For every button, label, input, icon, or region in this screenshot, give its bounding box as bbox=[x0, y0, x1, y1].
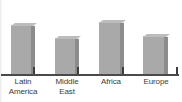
x-axis-label-europe: Europe bbox=[132, 77, 180, 87]
bar-europe bbox=[143, 36, 164, 74]
bar-chart: Latin America Middle East Africa Europe bbox=[0, 0, 182, 102]
bar-middle-east bbox=[55, 38, 75, 74]
plot-area bbox=[0, 0, 182, 76]
bar-africa bbox=[99, 22, 120, 74]
bar-side-face bbox=[164, 37, 168, 74]
x-axis-label-latin-america: Latin America bbox=[0, 77, 46, 96]
bar-latin-america bbox=[11, 25, 31, 74]
category-labels: Latin America Middle East Africa Europe bbox=[0, 76, 182, 102]
x-axis-label-middle-east: Middle East bbox=[44, 77, 90, 96]
axis-tick bbox=[33, 67, 35, 74]
axis-tick bbox=[176, 67, 178, 74]
x-axis-label-africa: Africa bbox=[88, 77, 134, 87]
axis-tick bbox=[77, 67, 79, 74]
axis-tick bbox=[122, 67, 124, 74]
